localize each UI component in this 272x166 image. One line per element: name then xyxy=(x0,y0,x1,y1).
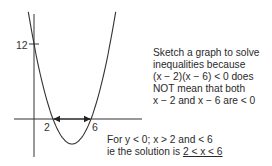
solution-answer: 2 < x < 6 xyxy=(183,146,223,157)
x-tick-label-6: 6 xyxy=(92,121,98,133)
solution-line-1: For y < 0; x > 2 and < 6 xyxy=(107,134,272,146)
solution-prefix: ie the solution is xyxy=(107,146,183,157)
note-line-1: Sketch a graph to solve xyxy=(153,47,271,59)
explanation-note: Sketch a graph to solve inequalities bec… xyxy=(153,47,271,107)
note-line-4: NOT mean that both xyxy=(153,83,271,95)
note-line-5: x − 2 and x − 6 are < 0 xyxy=(153,95,271,107)
y-tick-label-12: 12 xyxy=(16,39,28,51)
solution-line-2: ie the solution is 2 < x < 6 xyxy=(107,146,272,158)
parabola-curve xyxy=(28,12,115,144)
note-line-3: (x − 2)(x − 6) < 0 does xyxy=(153,71,271,83)
x-tick-label-2: 2 xyxy=(44,121,50,133)
solution-note: For y < 0; x > 2 and < 6 ie the solution… xyxy=(107,134,272,158)
note-line-2: inequalities because xyxy=(153,59,271,71)
